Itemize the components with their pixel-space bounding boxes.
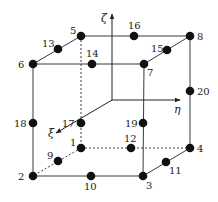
node-19-dot	[139, 119, 148, 128]
node-11-label: 11	[169, 165, 182, 176]
zeta-axis-label: ζ	[101, 12, 108, 25]
node-20-dot	[186, 87, 195, 96]
node-6-dot	[29, 60, 38, 69]
node-1-dot	[77, 144, 86, 153]
node-4-label: 4	[197, 143, 203, 154]
node-12-dot	[127, 144, 136, 153]
node-14-dot	[88, 60, 97, 69]
node-12-label: 12	[124, 133, 137, 144]
node-3-label: 3	[146, 180, 152, 191]
hexahedral-element-diagram: ζηξ 1234567891011121314151617181920	[0, 0, 218, 202]
element-figure: ζηξ 1234567891011121314151617181920	[0, 0, 218, 202]
eta-axis-label: η	[174, 103, 181, 116]
node-9-dot	[54, 157, 63, 166]
node-1-label: 1	[70, 137, 76, 148]
node-15-label: 15	[151, 43, 164, 54]
node-13-label: 13	[42, 38, 55, 49]
node-10-dot	[87, 172, 96, 181]
xi-axis-label: ξ	[48, 127, 55, 140]
node-15-dot	[163, 46, 172, 55]
node-20-label: 20	[197, 86, 210, 97]
node-7-label: 7	[147, 67, 153, 78]
node-5-label: 5	[70, 25, 76, 36]
node-4-dot	[186, 144, 195, 153]
node-19-label: 19	[125, 118, 138, 129]
node-5-dot	[77, 32, 86, 41]
node-2-label: 2	[18, 171, 24, 182]
node-8-label: 8	[197, 31, 203, 42]
node-16-label: 16	[128, 20, 141, 31]
node-6-label: 6	[18, 59, 24, 70]
node-10-label: 10	[84, 181, 97, 192]
node-17-dot	[77, 119, 86, 128]
node-9-label: 9	[47, 150, 53, 161]
node-16-dot	[130, 32, 139, 41]
node-8-dot	[186, 32, 195, 41]
node-2-dot	[29, 172, 38, 181]
node-17-label: 17	[62, 118, 75, 129]
node-18-dot	[29, 119, 38, 128]
node-3-dot	[139, 172, 148, 181]
node-14-label: 14	[86, 48, 99, 59]
node-18-label: 18	[14, 118, 27, 129]
node-13-dot	[54, 45, 63, 54]
